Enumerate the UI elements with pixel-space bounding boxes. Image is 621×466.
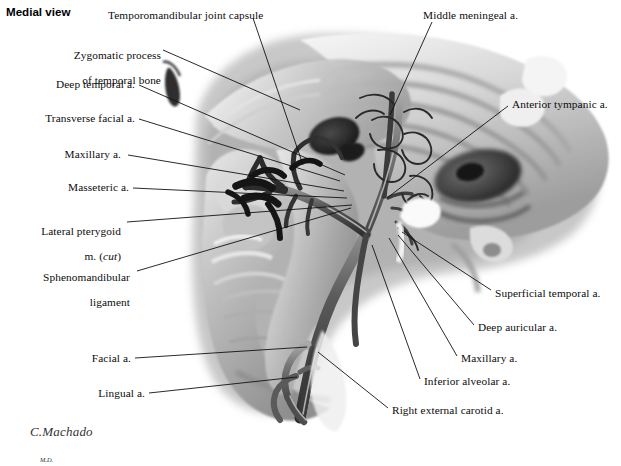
leader-transverse-facial (139, 119, 340, 181)
leader-facial (135, 347, 307, 358)
label-anterior-tympanic-a: Anterior tympanic a. (512, 98, 608, 111)
leader-middle-meningeal (390, 22, 432, 115)
leader-sphenomandibular (137, 208, 351, 271)
signature-credential: M.D. (40, 456, 93, 463)
label-facial-a: Facial a. (0, 352, 131, 365)
leader-superficial-temporal (402, 232, 491, 290)
leader-inferior-alveolar (372, 245, 420, 379)
leader-deep-auricular (398, 235, 474, 325)
leader-temporomandibular (253, 18, 303, 165)
label-sphenomandibular-line2: ligament (90, 296, 130, 308)
label-sphenomandibular-ligament: Sphenomandibular ligament (0, 258, 130, 321)
label-deep-temporal-a: Deep temporal a. (0, 78, 135, 91)
signature-name: C.Machado (30, 424, 93, 439)
label-maxillary-a-right: Maxillary a. (461, 352, 517, 365)
label-middle-meningeal-a: Middle meningeal a. (423, 9, 518, 22)
leader-lateral-pterygoid (127, 205, 352, 222)
leader-zygomatic-process (163, 50, 300, 110)
leader-lingual (149, 377, 297, 393)
label-masseteric-a: Masseteric a. (0, 181, 129, 194)
leader-masseteric (133, 188, 347, 198)
label-zygomatic-process-line1: Zygomatic process (74, 49, 161, 61)
leader-maxillary-right (389, 238, 457, 356)
leader-deep-temporal (139, 85, 345, 175)
label-right-external-carotid-a: Right external carotid a. (392, 404, 504, 417)
artist-signature: C.Machado M.D. (14, 404, 93, 466)
leader-right-external-carotid (318, 352, 388, 408)
page-title: Medial view (6, 5, 70, 18)
leader-anterior-tympanic (387, 106, 508, 198)
label-sphenomandibular-line1: Sphenomandibular (43, 271, 130, 283)
label-lateral-pterygoid-line1: Lateral pterygoid (41, 225, 121, 237)
label-deep-auricular-a: Deep auricular a. (478, 321, 557, 334)
label-temporomandibular-joint-capsule: Temporomandibular joint capsule (108, 9, 263, 22)
label-transverse-facial-a: Transverse facial a. (0, 112, 135, 125)
label-maxillary-a-left: Maxillary a. (0, 148, 121, 161)
label-superficial-temporal-a: Superficial temporal a. (495, 287, 601, 300)
label-lingual-a: Lingual a. (0, 387, 145, 400)
label-inferior-alveolar-a: Inferior alveolar a. (424, 375, 510, 388)
